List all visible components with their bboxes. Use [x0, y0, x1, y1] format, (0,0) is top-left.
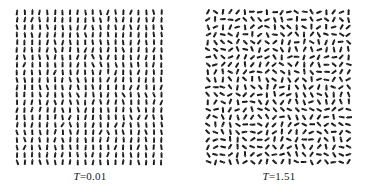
- spin-lattice-ordered: [14, 8, 166, 166]
- panel-caption-ordered: T=0.01: [14, 170, 166, 182]
- spin-configuration-figure: T=0.01 T=1.51: [0, 0, 367, 192]
- panel-ordered: T=0.01: [14, 8, 166, 166]
- panel-disordered: T=1.51: [205, 8, 353, 166]
- panel-caption-disordered: T=1.51: [205, 170, 353, 182]
- caption-value: =1.51: [269, 170, 295, 182]
- caption-value: =0.01: [80, 170, 106, 182]
- spin-lattice-disordered: [205, 8, 353, 166]
